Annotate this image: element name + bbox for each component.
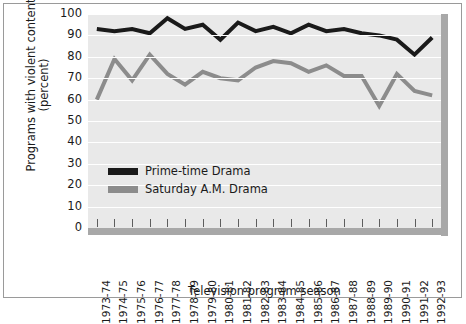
gridline [88, 35, 441, 36]
x-tick-mark [150, 219, 151, 227]
x-axis-ticks [88, 219, 441, 228]
y-tick-label: 50 [52, 115, 82, 126]
gridline [88, 207, 441, 208]
gridline [88, 121, 441, 122]
gridline [88, 142, 441, 143]
x-tick-mark [326, 219, 327, 227]
x-tick-mark [344, 219, 345, 227]
x-tick-mark [432, 219, 433, 227]
x-tick-mark [256, 219, 257, 227]
x-tick-mark [397, 219, 398, 227]
legend-swatch [108, 168, 138, 175]
gridline [88, 14, 441, 15]
gridline [88, 57, 441, 58]
x-axis-tick-labels: 1973-741974-751975-761976-771977-781978-… [88, 236, 441, 284]
x-tick-mark [220, 219, 221, 227]
y-tick-label: 90 [52, 29, 82, 40]
series-line [97, 18, 432, 54]
y-tick-label: 0 [52, 222, 82, 233]
x-tick-mark [379, 219, 380, 227]
x-tick-mark [185, 219, 186, 227]
y-axis-title-container: Programs with violent content (percent) [8, 20, 42, 220]
y-tick-label: 20 [52, 179, 82, 190]
y-tick-label: 30 [52, 158, 82, 169]
y-tick-label: 70 [52, 72, 82, 83]
x-tick-mark [114, 219, 115, 227]
y-tick-label: 10 [52, 201, 82, 212]
gridline [88, 78, 441, 79]
y-tick-label: 80 [52, 51, 82, 62]
x-tick-mark [132, 219, 133, 227]
x-axis-bar [88, 228, 441, 235]
x-tick-mark [362, 219, 363, 227]
series-line [97, 55, 432, 106]
gridline [88, 100, 441, 101]
legend-item: Saturday A.M. Drama [108, 181, 308, 197]
y-tick-label: 40 [52, 136, 82, 147]
legend-label: Prime-time Drama [145, 164, 251, 178]
x-tick-mark [167, 219, 168, 227]
x-tick-mark [238, 219, 239, 227]
legend-swatch [108, 186, 138, 193]
plot-right-edge-bar [441, 14, 448, 236]
x-tick-mark [203, 219, 204, 227]
x-axis-title: Television program season [88, 284, 441, 298]
legend-label: Saturday A.M. Drama [145, 182, 268, 196]
y-axis-title: Programs with violent content (percent) [25, 0, 51, 185]
y-tick-label: 60 [52, 94, 82, 105]
y-tick-label: 100 [52, 8, 82, 19]
legend-item: Prime-time Drama [108, 163, 308, 179]
y-axis-tick-labels: 0102030405060708090100 [50, 0, 82, 250]
x-tick-mark [97, 219, 98, 227]
chart-legend: Prime-time DramaSaturday A.M. Drama [108, 163, 308, 199]
x-tick-mark [291, 219, 292, 227]
x-tick-mark [273, 219, 274, 227]
x-tick-mark [309, 219, 310, 227]
x-tick-mark [415, 219, 416, 227]
